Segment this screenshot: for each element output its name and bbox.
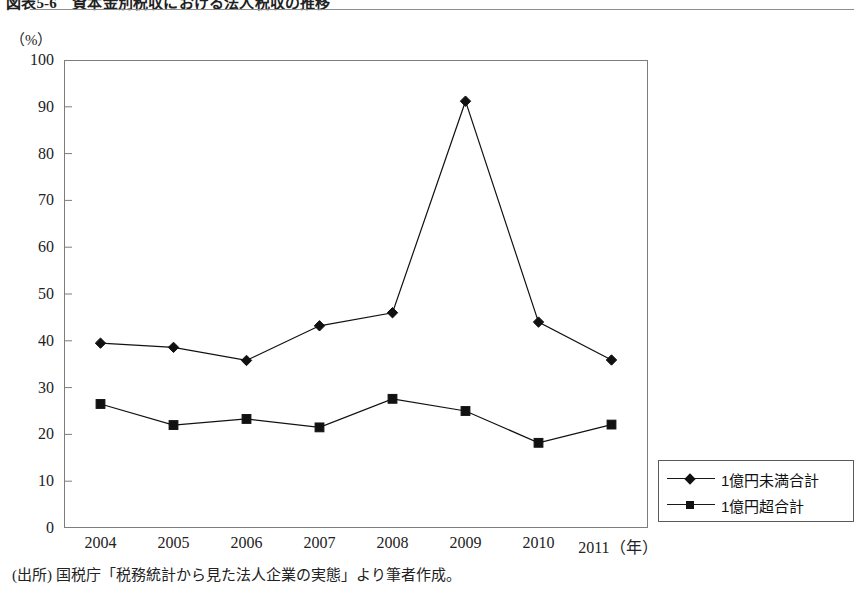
x-axis-tick-label: 2006	[231, 534, 263, 552]
square-marker-icon	[667, 498, 715, 512]
source-note: (出所) 国税庁「税務統計から見た法人企業の実態」より筆者作成。	[12, 563, 461, 584]
y-axis-tick-label: 40	[8, 332, 54, 350]
y-axis-tick-label: 60	[8, 238, 54, 256]
x-axis-tick-label: 2009	[450, 534, 482, 552]
figure-title: 図表5-6 資本金別税収における法人税収の推移	[6, 0, 331, 12]
x-axis-tick-label: 2011（年）	[578, 534, 657, 558]
y-axis-tick-label: 30	[8, 379, 54, 397]
y-axis-tick-label: 100	[8, 51, 54, 69]
x-axis-tick-label: 2005	[158, 534, 190, 552]
legend-item-under-100m: 1億円未満合計	[667, 466, 845, 492]
figure-page: 図表5-6 資本金別税収における法人税収の推移 （%） 010203040506…	[0, 0, 866, 593]
x-axis-tick-label: 2007	[304, 534, 336, 552]
title-divider	[30, 9, 854, 10]
diamond-marker-icon	[667, 472, 715, 486]
y-axis-unit-label: （%）	[10, 28, 53, 49]
legend-item-over-100m: 1億円超合計	[667, 492, 845, 518]
y-axis-tick-label: 50	[8, 285, 54, 303]
chart-legend: 1億円未満合計 1億円超合計	[658, 460, 854, 522]
x-axis-tick-label: 2008	[377, 534, 409, 552]
x-axis-tick-label: 2004	[85, 534, 117, 552]
y-axis-tick-label: 20	[8, 425, 54, 443]
y-axis-tick-label: 10	[8, 472, 54, 490]
legend-label-under-100m: 1億円未満合計	[721, 469, 819, 490]
x-axis-tick-label: 2010	[523, 534, 555, 552]
y-axis-tick-label: 80	[8, 145, 54, 163]
plot-area	[64, 60, 648, 528]
y-axis-tick-label: 90	[8, 98, 54, 116]
y-axis-tick-label: 70	[8, 191, 54, 209]
y-axis-tick-label: 0	[8, 519, 54, 537]
legend-label-over-100m: 1億円超合計	[721, 495, 804, 516]
